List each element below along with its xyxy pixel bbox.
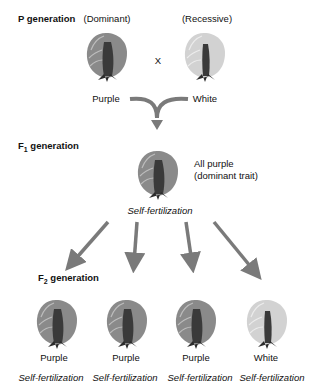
merge-arrow-head	[151, 120, 163, 130]
f1-note-line2: (dominant trait)	[194, 170, 258, 181]
mendel-cross-diagram: P generation (Dominant) (Recessive) X Pu…	[0, 0, 317, 387]
f2-process-4: Self-fertilization	[240, 372, 305, 383]
f2-flower-1-icon	[34, 297, 80, 351]
arrow-to-f2-1	[72, 222, 108, 263]
f2-generation-label: F2 generation	[38, 272, 99, 285]
f2-process-3: Self-fertilization	[168, 372, 233, 383]
cross-symbol: X	[155, 55, 161, 66]
p-purple-label: Purple	[92, 93, 119, 104]
arrow-to-f2-4	[214, 222, 255, 272]
f1-generation-label: F1 generation	[18, 140, 79, 153]
f2-flower-3-icon	[173, 297, 219, 351]
f2-label-3: Purple	[182, 352, 209, 363]
f2-flower-4-icon	[244, 297, 290, 351]
f1-purple-flower-icon	[135, 148, 181, 202]
f2-process-1: Self-fertilization	[19, 372, 84, 383]
p-generation-label: P generation	[18, 13, 75, 24]
purple-flower-icon	[84, 30, 130, 84]
p-white-label: White	[193, 93, 217, 104]
f2-label-1: Purple	[40, 352, 67, 363]
white-flower-icon	[182, 30, 228, 84]
f2-label-4: White	[254, 352, 278, 363]
arrow-to-f2-3	[186, 222, 192, 263]
arrow-to-f2-2	[134, 222, 137, 263]
merge-arrow-left	[130, 99, 157, 118]
f2-label-2: Purple	[112, 352, 139, 363]
f2-flower-2-icon	[104, 297, 150, 351]
f1-note-line1: All purple	[194, 158, 234, 169]
dominant-label: (Dominant)	[84, 13, 131, 24]
merge-arrow-right	[157, 99, 188, 118]
f1-process-label: Self-fertilization	[128, 205, 193, 216]
recessive-label: (Recessive)	[182, 13, 232, 24]
f2-process-2: Self-fertilization	[93, 372, 158, 383]
